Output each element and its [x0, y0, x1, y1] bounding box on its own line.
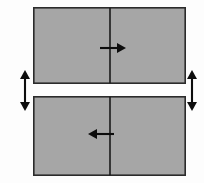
- bottom-block: [34, 97, 185, 175]
- shear-diagram-figure: [0, 0, 204, 183]
- diagram-canvas: [0, 0, 204, 183]
- top-block: [34, 8, 185, 83]
- separation-gap: [33, 84, 186, 96]
